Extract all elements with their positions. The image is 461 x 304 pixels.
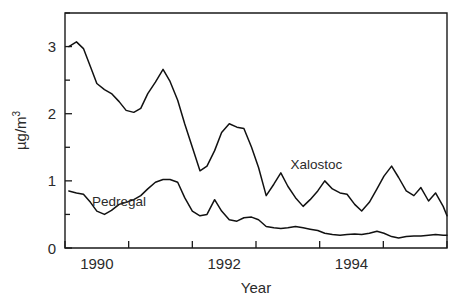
line-chart: 0123199019921994Yearµg/m3XalostocPedrega… <box>0 0 461 304</box>
y-tick-label: 2 <box>48 105 56 122</box>
x-tick-label: 1992 <box>207 255 240 272</box>
y-tick-label: 0 <box>48 240 56 257</box>
chart-figure: 0123199019921994Yearµg/m3XalostocPedrega… <box>0 0 461 304</box>
series-label-pedregal: Pedregal <box>92 194 146 209</box>
plot-frame <box>65 13 447 248</box>
y-axis-title: µg/m3 <box>11 110 29 150</box>
axes <box>65 13 447 248</box>
x-tick-label: 1990 <box>80 255 113 272</box>
series-line-xalostoc <box>69 42 447 216</box>
series-label-xalostoc: Xalostoc <box>291 157 343 172</box>
x-tick-label: 1994 <box>335 255 368 272</box>
y-tick-label: 3 <box>48 38 56 55</box>
y-tick-label: 1 <box>48 172 56 189</box>
x-axis-title: Year <box>241 279 271 296</box>
